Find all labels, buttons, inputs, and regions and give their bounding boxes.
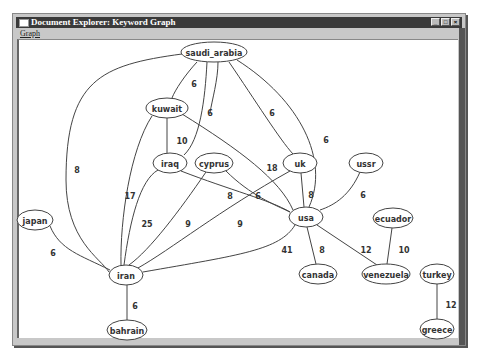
edge-weight-label: 8 [308,191,314,200]
svg-text:japan: japan [22,217,48,226]
node-cyprus[interactable]: cyprus [195,153,233,173]
edge-weight-label: 8 [319,246,325,255]
svg-text:ussr: ussr [356,160,375,169]
node-uk[interactable]: uk [283,153,317,173]
svg-text:ecuador: ecuador [375,215,411,224]
graph-edge[interactable] [121,116,152,265]
node-japan[interactable]: japan [17,210,53,230]
node-canada[interactable]: canada [299,264,337,284]
edge-weight-label: 6 [360,191,366,200]
edge-weight-label: 6 [50,249,56,258]
node-kuwait[interactable]: kuwait [146,98,188,118]
node-usa[interactable]: usa [289,207,323,227]
edge-weight-label: 6 [255,192,261,201]
graph-edge[interactable] [143,225,295,272]
node-bahrain[interactable]: bahrain [107,320,147,340]
edge-weight-label: 18 [266,164,278,173]
graph-edge[interactable] [129,172,206,265]
edge-weight-label: 9 [185,220,191,229]
node-ecuador[interactable]: ecuador [373,208,413,228]
graph-edge[interactable] [229,62,293,154]
edge-weight-label: 25 [141,220,153,229]
graph-edge[interactable] [307,227,316,264]
node-ussr[interactable]: ussr [349,153,383,173]
graph-edge[interactable] [124,170,158,265]
edge-weight-label: 41 [281,246,293,255]
node-iraq[interactable]: iraq [153,153,187,173]
graph-edge[interactable] [181,171,290,212]
graph-edge[interactable] [138,171,290,268]
graph-edge[interactable] [210,62,218,113]
edge-weight-label: 8 [227,192,233,201]
edge-weight-label: 6 [323,136,329,145]
svg-text:venezuela: venezuela [363,271,409,280]
node-turkey[interactable]: turkey [420,264,454,284]
svg-text:usa: usa [298,214,314,223]
node-saudi-arabia[interactable]: saudi_arabia [181,42,247,62]
edge-weight-label: 6 [191,80,197,89]
edge-weight-label: 10 [176,137,188,146]
svg-text:turkey: turkey [422,271,452,280]
edge-weight-label: 8 [74,166,80,175]
edge-weight-label: 9 [237,220,243,229]
graph-edge[interactable] [320,172,360,210]
edge-weight-label: 6 [207,109,213,118]
node-greece[interactable]: greece [420,319,454,339]
svg-text:bahrain: bahrain [110,327,145,336]
edge-weight-label: 12 [445,301,456,310]
svg-text:saudi_arabia: saudi_arabia [186,49,243,58]
svg-text:kuwait: kuwait [152,105,183,114]
svg-text:uk: uk [294,160,306,169]
graph-edge[interactable] [301,173,304,207]
node-iran[interactable]: iran [109,265,143,285]
edge-weight-label: 10 [398,246,410,255]
graph-edge[interactable] [387,228,392,264]
svg-text:canada: canada [302,271,334,280]
svg-text:iran: iran [117,272,135,281]
svg-text:greece: greece [422,326,453,335]
edge-weight-label: 6 [269,109,275,118]
edge-weight-label: 17 [124,192,135,201]
svg-text:iraq: iraq [161,160,179,169]
keyword-graph[interactable]: 861066617182589698641812106612saudi_arab… [0,0,478,359]
edge-weight-label: 6 [132,302,138,311]
node-venezuela[interactable]: venezuela [362,264,410,284]
svg-text:cyprus: cyprus [199,160,229,169]
edge-weight-label: 12 [360,246,371,255]
